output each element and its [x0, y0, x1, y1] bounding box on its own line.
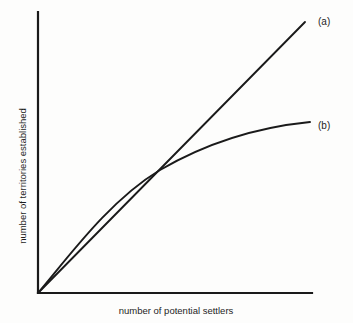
curve-b-label: (b) [318, 120, 330, 131]
curve-a-line [39, 22, 306, 293]
curve-b-path [39, 122, 311, 293]
curve-a-label: (a) [318, 16, 330, 27]
figure-page: number of territories established number… [0, 0, 353, 323]
chart-svg [0, 0, 353, 323]
line-chart [0, 0, 353, 323]
x-axis-label: number of potential settlers [119, 305, 234, 316]
y-axis-label: number of territories established [17, 108, 28, 244]
